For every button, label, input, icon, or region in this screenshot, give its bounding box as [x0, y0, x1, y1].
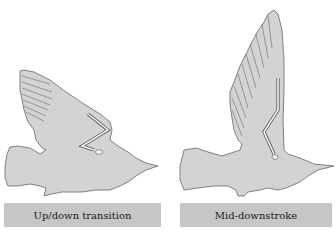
label-up-down-transition: Up/down transition — [4, 203, 161, 227]
label-mid-downstroke: Mid-downstroke — [180, 203, 332, 227]
bird-silhouette-up-down-transition — [0, 0, 168, 232]
panel-up-down-transition: Up/down transition — [0, 0, 168, 232]
bird-silhouette-mid-downstroke — [168, 0, 336, 232]
silhouette-shape — [5, 70, 158, 196]
panel-mid-downstroke: Mid-downstroke — [168, 0, 336, 232]
